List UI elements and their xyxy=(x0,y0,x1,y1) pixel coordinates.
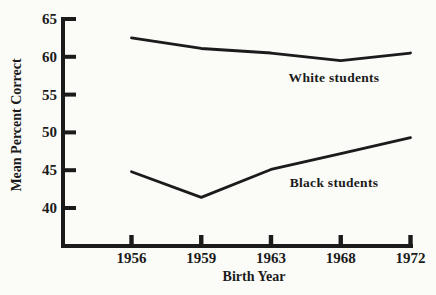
x-axis-tick-label: 1956 xyxy=(117,250,148,266)
x-axis-tick-label: 1963 xyxy=(256,250,286,266)
y-axis-tick xyxy=(65,17,76,21)
black-students-label: Black students xyxy=(290,175,379,190)
y-axis-tick-label: 65 xyxy=(42,11,57,27)
y-axis-tick xyxy=(65,206,76,210)
y-axis-tick-label: 45 xyxy=(42,162,57,178)
y-axis-tick xyxy=(65,168,76,172)
x-axis-title: Birth Year xyxy=(223,269,286,284)
white-students-line xyxy=(132,38,411,61)
x-axis-tick-label: 1972 xyxy=(396,250,426,266)
x-axis-tick xyxy=(408,235,412,244)
y-axis-line xyxy=(61,17,65,248)
x-axis-ticks: 19561959196319681972 xyxy=(117,235,426,266)
x-axis-tick xyxy=(129,235,133,244)
x-axis-line xyxy=(61,244,413,248)
series-lines xyxy=(132,38,411,198)
y-axis-tick-label: 40 xyxy=(42,200,57,216)
figure: 656055504540 19561959196319681972 Mean P… xyxy=(0,0,436,295)
y-axis-tick xyxy=(65,130,76,134)
y-axis-ticks: 656055504540 xyxy=(42,11,76,216)
x-axis-tick xyxy=(339,235,343,244)
white-students-label: White students xyxy=(289,70,380,85)
y-axis-tick-label: 50 xyxy=(42,124,57,140)
y-axis-title: Mean Percent Correct xyxy=(9,58,24,192)
y-axis-tick-label: 55 xyxy=(42,87,57,103)
y-axis-tick xyxy=(65,93,76,97)
x-axis-tick-label: 1959 xyxy=(186,250,216,266)
line-chart: 656055504540 19561959196319681972 Mean P… xyxy=(0,0,436,295)
x-axis-tick xyxy=(199,235,203,244)
x-axis-tick-label: 1968 xyxy=(326,250,356,266)
y-axis-tick xyxy=(65,55,76,59)
y-axis-tick-label: 60 xyxy=(42,49,57,65)
x-axis-tick xyxy=(269,235,273,244)
